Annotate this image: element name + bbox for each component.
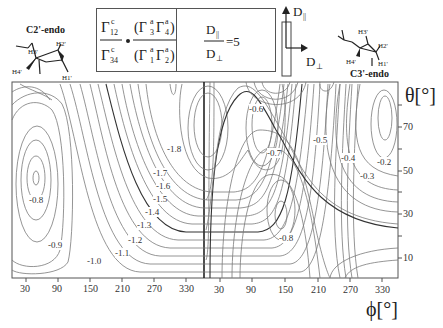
x-tick-label: 210 (115, 283, 130, 294)
contour-label: -0.6 (249, 104, 263, 114)
x-tick-label: 210 (311, 284, 326, 295)
contour-label: -1.5 (153, 194, 167, 204)
contour-label: -0.9 (48, 240, 62, 250)
contour-label: -1.0 (87, 256, 101, 266)
x-tick-label: 270 (343, 284, 358, 295)
contour-label: -1.7 (153, 168, 167, 178)
x-tick-label: 90 (52, 283, 62, 294)
y-tick-label: 50 (403, 165, 413, 176)
contour-label: -1.8 (167, 144, 181, 154)
y-tick-label: 70 (403, 121, 413, 132)
y-tick-label: 10 (403, 252, 413, 263)
contour-label: -0.4 (341, 153, 355, 163)
x-tick-label: 30 (214, 284, 224, 295)
x-axis-label: ϕ[°] (366, 298, 398, 321)
contour-label: -0.8 (279, 233, 293, 243)
x-tick-label: 150 (278, 284, 293, 295)
x-tick-label: 150 (83, 283, 98, 294)
contour-label: -0.7 (267, 148, 281, 158)
contour-label: -0.2 (377, 157, 391, 167)
contour-label: -0.8 (29, 195, 43, 205)
contour-label: -1.3 (137, 220, 151, 230)
contour-label: -0.3 (360, 171, 374, 181)
x-tick-label: 330 (375, 284, 390, 295)
x-tick-label: 330 (179, 283, 194, 294)
x-tick-label: 270 (147, 283, 162, 294)
contour-label: -1.6 (156, 181, 170, 191)
x-tick-label: 30 (20, 283, 30, 294)
contour-label: -1.2 (128, 235, 142, 245)
y-tick-label: 30 (403, 208, 413, 219)
contour-label: -1.1 (115, 248, 129, 258)
contour-label: -0.5 (313, 135, 327, 145)
contour-label: -1.4 (145, 207, 159, 217)
x-tick-label: 90 (246, 284, 256, 295)
